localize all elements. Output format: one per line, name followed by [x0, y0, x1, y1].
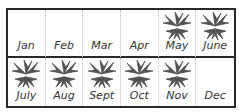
plant-icon: [48, 59, 80, 89]
month-calendar-grid: JanFebMarApr May June July: [6, 8, 236, 108]
month-label: Feb: [46, 39, 83, 52]
plant-icon: [161, 11, 193, 41]
month-cell-mar: Mar: [83, 10, 121, 58]
month-cell-nov: Nov: [159, 58, 197, 106]
month-cell-sept: Sept: [83, 58, 121, 106]
month-cell-july: July: [8, 58, 46, 106]
plant-icon: [86, 59, 118, 89]
month-label: Mar: [83, 39, 120, 52]
month-cell-may: May: [159, 10, 197, 58]
month-cell-aug: Aug: [46, 58, 84, 106]
month-label: Apr: [121, 39, 158, 52]
month-cell-june: June: [196, 10, 234, 58]
month-label: Dec: [196, 89, 234, 102]
month-label: May: [159, 39, 196, 52]
month-cell-oct: Oct: [121, 58, 159, 106]
plant-icon: [199, 11, 231, 41]
month-label: July: [8, 89, 45, 102]
month-label: June: [196, 39, 234, 52]
month-label: Jan: [8, 39, 45, 52]
month-cell-feb: Feb: [46, 10, 84, 58]
month-cell-apr: Apr: [121, 10, 159, 58]
month-label: Oct: [121, 89, 158, 102]
month-cell-dec: Dec: [196, 58, 234, 106]
month-label: Aug: [46, 89, 83, 102]
plant-icon: [10, 59, 42, 89]
month-label: Sept: [83, 89, 120, 102]
plant-icon: [161, 59, 193, 89]
month-label: Nov: [159, 89, 196, 102]
month-cell-jan: Jan: [8, 10, 46, 58]
plant-icon: [123, 59, 155, 89]
